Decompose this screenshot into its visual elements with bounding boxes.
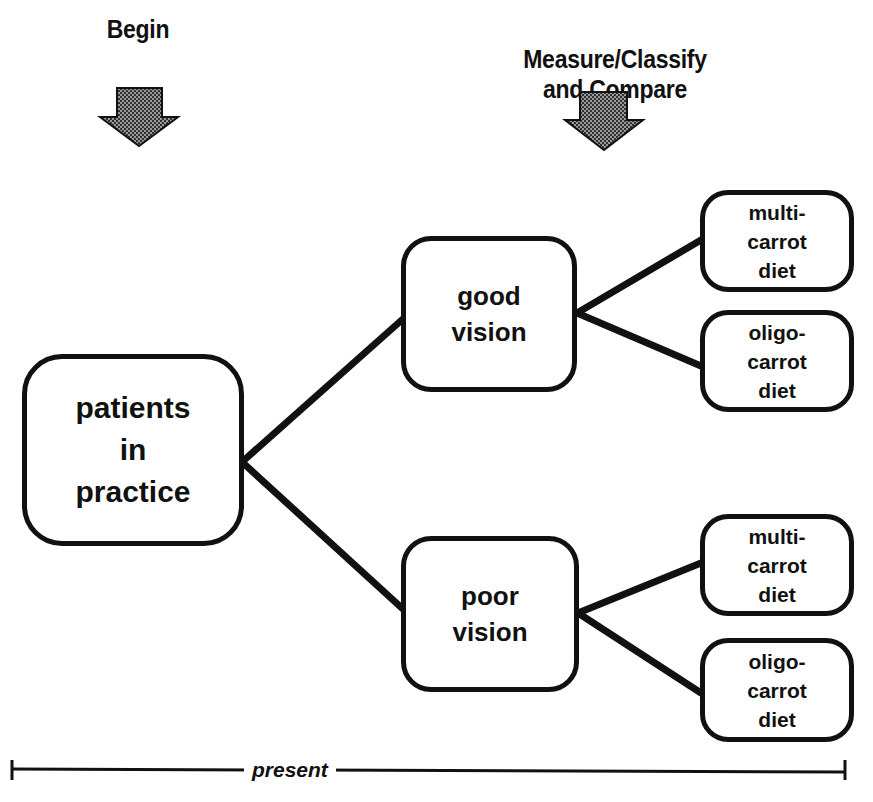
node-label: oligo- carrot diet bbox=[747, 318, 807, 405]
node-good-vision: good vision bbox=[401, 236, 577, 392]
node-label: multi- carrot diet bbox=[747, 198, 807, 285]
connector-root-poor bbox=[242, 462, 404, 610]
node-poor-vision: poor vision bbox=[401, 536, 579, 692]
connector-good-multi bbox=[577, 240, 701, 313]
down-arrow-icon bbox=[100, 88, 178, 146]
node-poor-oligo-carrot-diet: oligo- carrot diet bbox=[700, 638, 854, 742]
node-label: oligo- carrot diet bbox=[747, 647, 807, 734]
node-label: poor vision bbox=[452, 578, 527, 650]
timeline-bar bbox=[12, 760, 845, 780]
down-arrow-icon bbox=[565, 92, 643, 150]
node-label: patients in practice bbox=[75, 387, 190, 513]
node-patients-in-practice: patients in practice bbox=[22, 354, 244, 546]
node-poor-multi-carrot-diet: multi- carrot diet bbox=[700, 514, 854, 616]
timeline-label-present: present bbox=[244, 758, 336, 782]
node-label: multi- carrot diet bbox=[747, 522, 807, 609]
connector-poor-multi bbox=[578, 563, 701, 613]
connector-root-good bbox=[242, 318, 404, 462]
connector-poor-oligo bbox=[578, 613, 701, 693]
node-label: good vision bbox=[451, 278, 526, 350]
connector-good-oligo bbox=[577, 313, 701, 366]
node-good-oligo-carrot-diet: oligo- carrot diet bbox=[700, 310, 854, 412]
node-good-multi-carrot-diet: multi- carrot diet bbox=[700, 190, 854, 292]
timeline-label: present bbox=[252, 758, 328, 781]
